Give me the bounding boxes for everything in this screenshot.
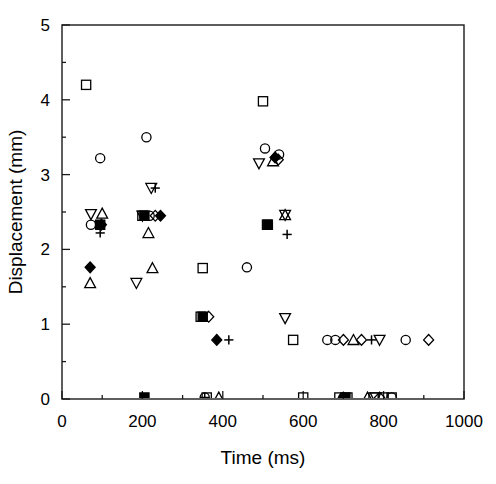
marker-square — [82, 80, 91, 89]
axis-ticks — [62, 25, 464, 399]
plot-frame — [62, 25, 464, 399]
marker-triangle-down — [280, 314, 291, 324]
y-axis-title: Displacement (mm) — [5, 130, 26, 295]
marker-filled-diamond — [212, 335, 222, 346]
y-tick-label: 5 — [41, 16, 50, 35]
marker-diamond — [424, 335, 434, 346]
marker-circle — [260, 144, 269, 153]
marker-triangle-down — [254, 159, 265, 169]
x-tick-label: 0 — [57, 412, 66, 431]
data-points-layer — [82, 80, 434, 403]
marker-filled-square — [341, 393, 350, 402]
series-filled-diamond — [85, 152, 348, 403]
marker-filled-square — [140, 393, 149, 402]
y-tick-label: 3 — [41, 166, 50, 185]
series-circle — [86, 133, 410, 403]
y-tick-label: 2 — [41, 240, 50, 259]
marker-triangle-up — [143, 228, 154, 238]
marker-plus — [224, 335, 233, 344]
marker-triangle-up — [147, 263, 158, 273]
y-tick-label: 0 — [41, 390, 50, 409]
marker-square — [198, 264, 207, 273]
marker-triangle-down — [131, 278, 142, 288]
series-triangle-up — [85, 156, 373, 402]
series-diamond — [150, 154, 433, 403]
marker-triangle-up — [85, 278, 96, 288]
y-tick-label: 1 — [41, 315, 50, 334]
marker-circle — [86, 220, 95, 229]
marker-circle — [142, 133, 151, 142]
marker-filled-square — [140, 211, 149, 220]
plot-canvas: 02004006008001000012345Time (ms)Displace… — [0, 0, 496, 484]
y-tick-label: 4 — [41, 91, 50, 110]
series-filled-square — [96, 211, 350, 402]
series-square — [82, 80, 397, 402]
marker-circle — [96, 154, 105, 163]
marker-square — [289, 335, 298, 344]
marker-filled-square — [198, 312, 207, 321]
marker-filled-square — [263, 220, 272, 229]
series-triangle-down — [86, 159, 385, 403]
x-tick-label: 400 — [209, 412, 237, 431]
tick-labels: 02004006008001000012345 — [41, 16, 483, 431]
x-tick-label: 200 — [128, 412, 156, 431]
scatter-plot-figure: 02004006008001000012345Time (ms)Displace… — [0, 0, 496, 484]
marker-triangle-up — [362, 392, 373, 402]
x-tick-label: 600 — [289, 412, 317, 431]
marker-filled-diamond — [85, 262, 95, 273]
x-tick-label: 800 — [369, 412, 397, 431]
marker-circle — [401, 335, 410, 344]
marker-square — [258, 97, 267, 106]
marker-plus — [283, 230, 292, 239]
x-axis-title: Time (ms) — [221, 447, 306, 468]
x-tick-label: 1000 — [445, 412, 483, 431]
marker-triangle-down — [86, 210, 97, 220]
marker-filled-square — [96, 220, 105, 229]
marker-circle — [242, 263, 251, 272]
marker-triangle-up — [97, 208, 108, 218]
